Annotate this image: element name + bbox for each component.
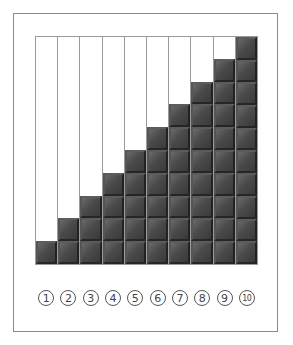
block [169,150,190,173]
block [214,173,235,196]
block [191,218,212,241]
block [236,37,257,60]
column-2 [57,36,79,264]
column-10 [235,36,258,264]
column-label-2: 2 [57,288,79,308]
block [125,218,146,241]
column-label-7: 7 [169,288,191,308]
block [80,241,101,264]
block [125,196,146,219]
block [214,127,235,150]
block [80,218,101,241]
block [103,196,124,219]
block [191,173,212,196]
block [103,218,124,241]
block [236,60,257,83]
circled-number: 6 [150,290,166,306]
column-label-6: 6 [146,288,168,308]
column-label-9: 9 [213,288,235,308]
block [147,127,168,150]
block [147,218,168,241]
block [125,241,146,264]
block [236,219,257,242]
block [103,173,124,196]
circled-number: 1 [38,290,54,306]
block [214,218,235,241]
block [125,173,146,196]
circled-number: 7 [172,290,188,306]
block [147,173,168,196]
block [236,105,257,128]
column-label-3: 3 [80,288,102,308]
block [191,82,212,105]
block [147,241,168,264]
column-5 [124,36,146,264]
block [36,241,57,264]
column-1 [35,36,57,264]
block [191,196,212,219]
block [169,127,190,150]
block [191,127,212,150]
block [103,241,124,264]
circled-number: 4 [105,290,121,306]
block [147,150,168,173]
block [236,196,257,219]
circled-number: 2 [60,290,76,306]
block [214,82,235,105]
block [58,218,79,241]
column-4 [102,36,124,264]
block [191,150,212,173]
circled-number: 3 [83,290,99,306]
block [147,196,168,219]
block [214,241,235,264]
block [169,241,190,264]
column-3 [79,36,101,264]
block [214,104,235,127]
column-label-4: 4 [102,288,124,308]
block [214,196,235,219]
column-7 [168,36,190,264]
circled-number: 5 [127,290,143,306]
column-label-5: 5 [124,288,146,308]
circled-number: 10 [239,290,255,306]
circled-number: 8 [194,290,210,306]
column-label-1: 1 [35,288,57,308]
column-8 [190,36,212,264]
block [169,104,190,127]
column-label-8: 8 [191,288,213,308]
block [214,150,235,173]
column-labels: 12345678910 [35,288,258,308]
block [80,196,101,219]
block [169,173,190,196]
block [125,150,146,173]
block-grid [35,36,258,265]
block [236,82,257,105]
block [236,173,257,196]
column-label-10: 10 [236,288,258,308]
block [169,218,190,241]
block [191,241,212,264]
circled-number: 9 [217,290,233,306]
block [58,241,79,264]
block [169,196,190,219]
column-6 [146,36,168,264]
block [236,241,257,264]
column-9 [213,36,235,264]
block [236,128,257,151]
block [236,150,257,173]
block [191,104,212,127]
block [214,59,235,82]
